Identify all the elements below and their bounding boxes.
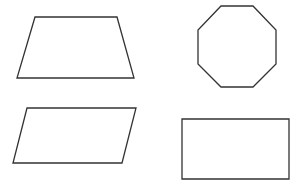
background (0, 0, 301, 184)
shapes-canvas (0, 0, 301, 184)
